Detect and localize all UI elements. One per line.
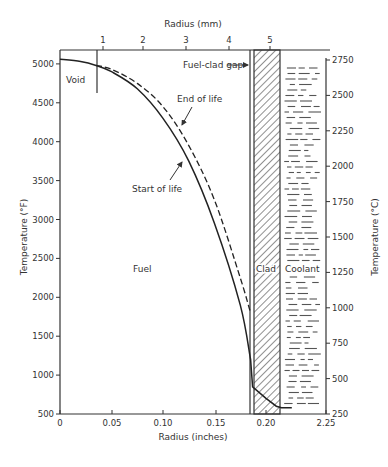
y-right-tick-label: 2500 bbox=[332, 90, 354, 100]
start-of-life-label: Start of life bbox=[132, 184, 183, 194]
void-label: Void bbox=[66, 75, 85, 85]
y-right-tick-label: 500 bbox=[332, 374, 348, 384]
clad-label: Clad bbox=[256, 264, 276, 274]
eol-arrow-icon bbox=[182, 107, 192, 125]
x-top-tick-label: 2 bbox=[140, 35, 145, 45]
y-tick-label: 500 bbox=[38, 409, 54, 419]
x-tick-label: 0 bbox=[57, 418, 62, 428]
y-tick-label: 4000 bbox=[32, 137, 54, 147]
x-tick-label: 0.15 bbox=[207, 418, 226, 428]
y-right-tick-label: 1750 bbox=[332, 197, 354, 207]
y-right-tick-label: 1500 bbox=[332, 232, 354, 242]
x-top-tick-label: 5 bbox=[267, 35, 272, 45]
y-tick-label: 2500 bbox=[32, 253, 54, 263]
x-top-tick-label: 3 bbox=[183, 35, 188, 45]
y-right-tick-label: 2250 bbox=[332, 126, 354, 136]
x-tick-label: 0.20 bbox=[257, 418, 276, 428]
y-tick-label: 5000 bbox=[32, 59, 54, 69]
clad-region bbox=[254, 50, 280, 414]
fuel-label: Fuel bbox=[133, 264, 151, 274]
y-tick-label: 1500 bbox=[32, 331, 54, 341]
top-axis-ticks: 12345 bbox=[100, 35, 272, 50]
bottom-axis-title: Radius (inches) bbox=[158, 432, 227, 442]
left-axis-ticks: 500100015002000250030003500400045005000 bbox=[32, 59, 60, 419]
x-tick-label: 0.10 bbox=[154, 418, 173, 428]
y-right-tick-label: 750 bbox=[332, 338, 348, 348]
x-tick-label: 0.05 bbox=[103, 418, 122, 428]
y-tick-label: 2000 bbox=[32, 292, 54, 302]
left-axis-title: Temperature (°F) bbox=[19, 199, 29, 277]
x-top-tick-label: 4 bbox=[226, 35, 231, 45]
x-tick-label: 2.25 bbox=[317, 418, 336, 428]
right-axis-ticks: 2505007501000125015001750200022502500275… bbox=[326, 55, 354, 419]
y-tick-label: 1000 bbox=[32, 370, 54, 380]
coolant-label: Coolant bbox=[285, 264, 320, 274]
temperature-profile-chart: Radius (mm) 12345 5001000150020002500300… bbox=[0, 0, 388, 467]
x-top-tick-label: 1 bbox=[100, 35, 105, 45]
end-of-life-label: End of life bbox=[177, 94, 223, 104]
y-right-tick-label: 1000 bbox=[332, 303, 354, 313]
top-axis-title: Radius (mm) bbox=[164, 19, 222, 29]
y-tick-label: 4500 bbox=[32, 98, 54, 108]
coolant-region bbox=[284, 68, 321, 404]
bottom-axis-ticks: 00.050.100.150.202.25 bbox=[57, 410, 335, 428]
y-right-tick-label: 1250 bbox=[332, 267, 354, 277]
sol-arrow-icon bbox=[170, 162, 182, 180]
y-right-tick-label: 2000 bbox=[332, 161, 354, 171]
right-axis-title: Temperature (°C) bbox=[370, 198, 380, 277]
y-right-tick-label: 2750 bbox=[332, 55, 354, 65]
y-tick-label: 3500 bbox=[32, 176, 54, 186]
y-tick-label: 3000 bbox=[32, 215, 54, 225]
